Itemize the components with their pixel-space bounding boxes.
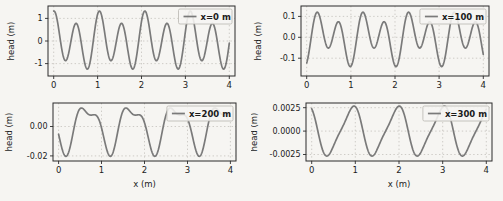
y-axis-label: head (m) bbox=[253, 22, 263, 61]
y-tick-label: 1 bbox=[37, 14, 42, 23]
subplot-x-100m-svg: 012340.10.0-0.1head (m)x=100 m bbox=[251, 0, 503, 100]
y-tick-label: 0.0025 bbox=[273, 104, 301, 113]
x-tick-label: 4 bbox=[484, 165, 489, 175]
legend-label: x=300 m bbox=[445, 109, 487, 119]
x-tick-label: 3 bbox=[185, 165, 190, 175]
y-tick-label: 0.1 bbox=[283, 12, 296, 21]
x-tick-label: 2 bbox=[392, 80, 397, 90]
subplot-x-100m: 012340.10.0-0.1head (m)x=100 m bbox=[251, 0, 503, 100]
y-tick-label: -0.02 bbox=[27, 152, 48, 161]
legend-label: x=100 m bbox=[442, 12, 484, 22]
x-tick-label: 3 bbox=[183, 80, 188, 90]
subplot-x-300m: 012340.00250.0000-0.0025head (m)x (m)x=3… bbox=[251, 100, 503, 201]
legend: x=0 m bbox=[179, 9, 233, 24]
y-tick-label: 0 bbox=[37, 37, 42, 46]
x-axis-label: x (m) bbox=[388, 179, 411, 189]
x-tick-label: 4 bbox=[481, 80, 486, 90]
x-tick-label: 3 bbox=[436, 80, 441, 90]
x-tick-label: 0 bbox=[304, 80, 309, 90]
subplot-x-200m-svg: 012340.00-0.02head (m)x (m)x=200 m bbox=[0, 100, 251, 201]
y-tick-label: -0.1 bbox=[280, 54, 296, 63]
legend: x=200 m bbox=[167, 106, 233, 121]
x-tick-label: 1 bbox=[95, 80, 100, 90]
x-axis-label: x (m) bbox=[133, 179, 156, 189]
x-tick-label: 4 bbox=[228, 165, 233, 175]
y-tick-label: 0.0000 bbox=[273, 127, 301, 136]
y-tick-label: 0.00 bbox=[30, 122, 48, 131]
x-tick-label: 0 bbox=[51, 80, 56, 90]
y-axis-label: head (m) bbox=[6, 22, 16, 61]
x-tick-label: 1 bbox=[348, 80, 353, 90]
x-tick-label: 1 bbox=[99, 165, 104, 175]
y-tick-label: 0.0 bbox=[283, 33, 296, 42]
y-axis-label: head (m) bbox=[251, 113, 259, 152]
subplot-x-300m-svg: 012340.00250.0000-0.0025head (m)x (m)x=3… bbox=[251, 100, 503, 201]
y-tick-label: -0.0025 bbox=[270, 150, 301, 159]
x-tick-label: 4 bbox=[227, 80, 232, 90]
legend: x=100 m bbox=[420, 9, 486, 24]
subplot-x-0m-svg: 0123410-1head (m)x=0 m bbox=[0, 0, 251, 100]
figure-canvas: 0123410-1head (m)x=0 m 012340.10.0-0.1he… bbox=[0, 0, 503, 201]
subplot-x-200m: 012340.00-0.02head (m)x (m)x=200 m bbox=[0, 100, 251, 201]
x-tick-label: 0 bbox=[56, 165, 61, 175]
x-tick-label: 2 bbox=[139, 80, 144, 90]
y-tick-label: -1 bbox=[35, 59, 43, 68]
y-axis-label: head (m) bbox=[4, 113, 14, 152]
x-tick-label: 3 bbox=[440, 165, 445, 175]
legend: x=300 m bbox=[423, 106, 489, 121]
x-tick-label: 1 bbox=[353, 165, 358, 175]
x-tick-label: 2 bbox=[396, 165, 401, 175]
legend-label: x=200 m bbox=[189, 109, 231, 119]
x-tick-label: 0 bbox=[309, 165, 314, 175]
x-tick-label: 2 bbox=[142, 165, 147, 175]
legend-label: x=0 m bbox=[201, 12, 231, 22]
subplot-x-0m: 0123410-1head (m)x=0 m bbox=[0, 0, 251, 100]
